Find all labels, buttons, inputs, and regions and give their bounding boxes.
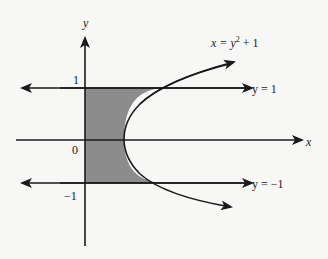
curve-equation-label: x = y2 + 1 <box>210 35 259 50</box>
label-y-equals-neg1: y = −1 <box>252 177 284 191</box>
label-y-equals-1: y = 1 <box>252 82 277 96</box>
tick-label-0: 0 <box>72 143 78 157</box>
parabola-curve <box>124 63 233 207</box>
y-axis-label: y <box>82 16 89 30</box>
shaded-region <box>85 88 166 183</box>
region-diagram: y x 1 0 −1 x = y2 + 1 y = 1 y = −1 <box>0 0 328 259</box>
x-axis-label: x <box>305 135 312 149</box>
tick-label-1: 1 <box>73 73 79 87</box>
tick-label-neg1: −1 <box>64 189 77 203</box>
diagram-canvas: y x 1 0 −1 x = y2 + 1 y = 1 y = −1 <box>0 0 328 259</box>
